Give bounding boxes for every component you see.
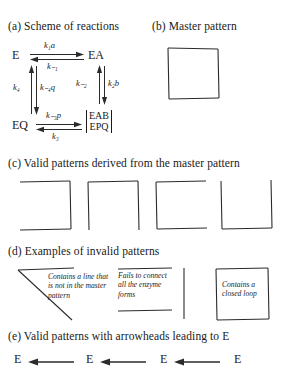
pattern-missing-left: [18, 179, 74, 233]
invalid-closed-loop-note: Contains a closed loop: [222, 280, 266, 299]
arrow-pattern-4-label: E: [234, 352, 241, 367]
bottom-reversible-arrow: [34, 121, 84, 133]
rate-right-down: k₂b: [108, 78, 119, 88]
figure-page: (a) Scheme of reactions E EA EQ EAB EPQ …: [0, 0, 281, 372]
rate-bottom-reverse: k₃: [52, 131, 59, 141]
right-reversible-arrow: [96, 64, 108, 106]
node-EAB: EAB: [89, 111, 109, 122]
invalid-disconnected-note: Fails to connect all the enzyme forms: [118, 271, 170, 299]
arrow-pattern-3-arrow: [172, 359, 222, 369]
left-reversible-arrow: [28, 64, 40, 116]
arrow-pattern-1-arrow: [26, 359, 76, 369]
rate-bottom-forward: k₋₃p: [46, 110, 61, 120]
rate-top-forward: k₁a: [44, 40, 55, 50]
reaction-scheme-diagram: E EA EQ EAB EPQ k₁a k₋₁: [12, 42, 142, 134]
node-EA: EA: [88, 48, 104, 63]
node-EAB-EPQ-bracket: EAB EPQ: [86, 110, 112, 133]
arrow-pattern-2-arrow: [98, 359, 148, 369]
master-pattern-square: [166, 46, 222, 102]
rate-left-down: k₋₄q: [40, 82, 55, 92]
panel-e-caption: (e) Valid patterns with arrowheads leadi…: [8, 330, 229, 342]
arrow-pattern-2-label: E: [86, 352, 93, 367]
node-EQ: EQ: [12, 118, 28, 133]
node-EPQ: EPQ: [89, 122, 109, 133]
arrow-pattern-1-label: E: [14, 352, 21, 367]
rate-left-up: k₄: [13, 82, 20, 92]
rate-right-up: k₋₂: [76, 78, 87, 88]
panel-b-caption: (b) Master pattern: [152, 20, 237, 32]
panel-c-caption: (c) Valid patterns derived from the mast…: [8, 157, 240, 169]
node-E: E: [12, 48, 19, 63]
arrow-pattern-3-label: E: [160, 352, 167, 367]
pattern-missing-bottom: [86, 179, 142, 233]
invalid-extra-line-note: Contains a line that is not in the maste…: [48, 272, 110, 300]
rate-top-reverse: k₋₁: [47, 61, 58, 71]
panel-d-caption: (d) Examples of invalid patterns: [8, 245, 159, 257]
pattern-missing-right: [154, 179, 210, 233]
pattern-missing-top: [219, 179, 275, 233]
panel-a-caption: (a) Scheme of reactions: [8, 20, 119, 32]
